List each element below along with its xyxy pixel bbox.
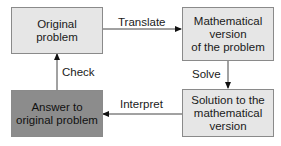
edge-label-interpret: Interpret	[120, 98, 163, 111]
edge-label-translate: Translate	[118, 16, 166, 29]
node-answer: Answer to original problem	[11, 90, 103, 137]
node-solution: Solution to the mathematical version	[182, 89, 274, 137]
edge-label-check: Check	[62, 66, 95, 79]
edge-label-solve: Solve	[192, 68, 221, 81]
node-original-problem: Original problem	[11, 7, 103, 54]
node-mathematical-version: Mathematical version of the problem	[182, 7, 274, 61]
